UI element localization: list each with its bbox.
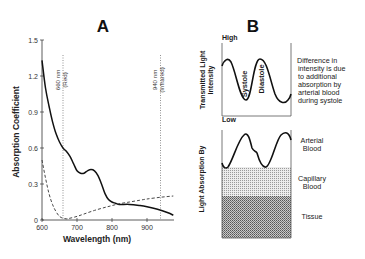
svg-text:(Infrared): (Infrared) [158,67,165,92]
marker-660nm-label: 660 nm (Red) [54,70,68,91]
y-tick-label: 1.2 [28,73,38,80]
svg-text:(Red): (Red) [61,72,68,87]
svg-text:during systole: during systole [298,96,342,105]
panel-b-label: B [247,17,259,36]
panel-b: B High Low Transmitted Light Intensity S… [198,17,346,238]
panel-b-bottom-chart: Light Absorption By Arterial Blood Capil… [198,130,326,238]
svg-text:940 nm: 940 nm [151,70,158,91]
svg-text:Blood: Blood [303,182,321,191]
svg-text:Transmitted Light: Transmitted Light [199,50,207,109]
layer-label-tissue: Tissue [302,212,323,221]
high-label: High [222,34,238,42]
top-ylabel: Transmitted Light Intensity [199,50,215,109]
bottom-ylabel: Light Absorption By [198,145,206,212]
panel-a: A 0 0.3 0.6 0.9 1.2 1.5 600 700 8 [11,17,174,244]
series-dashed-line [42,160,173,219]
tissue-layer [222,196,291,238]
y-tick-label: 0 [34,217,38,224]
systole-label: Systole [240,71,249,98]
figure-canvas: A 0 0.3 0.6 0.9 1.2 1.5 600 700 8 [0,0,365,259]
x-axis-title: Wavelength (nm) [63,234,131,244]
y-tick-label: 1.5 [28,37,38,44]
diastole-label: Diastole [257,64,266,93]
panel-a-label: A [97,17,109,36]
x-tick-label: 800 [106,224,118,231]
panel-b-top-chart: High Low Transmitted Light Intensity Sys… [199,34,346,123]
svg-text:660 nm: 660 nm [54,70,61,91]
svg-text:Tissue: Tissue [302,212,323,221]
low-label: Low [222,116,237,123]
y-tick-label: 0.9 [28,109,38,116]
marker-940nm-label: 940 nm (Infrared) [151,67,165,92]
x-tick-label: 900 [141,224,153,231]
x-tick-label: 600 [36,224,48,231]
svg-text:Intensity: Intensity [207,66,215,95]
arterial-blood-wave [222,133,291,168]
x-tick-label: 700 [71,224,83,231]
y-axis-title: Absorption Coefficient [11,86,21,178]
intensity-note: Difference in intensity is due to additi… [297,56,346,105]
capillary-blood-layer [222,167,291,196]
layer-label-capillary: Capillary Blood [298,174,326,191]
y-tick-label: 0.6 [28,145,38,152]
y-tick-label: 0.3 [28,181,38,188]
layer-label-arterial: Arterial Blood [301,136,324,153]
svg-text:Blood: Blood [303,144,321,153]
